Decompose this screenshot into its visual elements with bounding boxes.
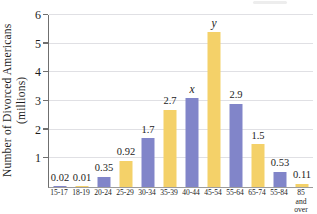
x-axis-label-35-39: 35-39 xyxy=(158,189,180,214)
bar-value-label: 2.9 xyxy=(229,90,242,101)
bar-slot-35-39: 2.7 xyxy=(159,15,181,187)
bar-value-label: x xyxy=(189,84,194,96)
y-tick-mark-5 xyxy=(43,42,48,43)
bar-55-84 xyxy=(274,172,287,187)
x-axis-label-85: 85 and over xyxy=(290,189,312,214)
bar-slot-45-54: y xyxy=(203,15,225,187)
x-axis-label-20-24: 20-24 xyxy=(92,189,114,214)
x-axis-label-18-19: 18-19 xyxy=(70,189,92,214)
y-tick-mark-4 xyxy=(43,71,48,72)
x-axis-label-15-17: 15-17 xyxy=(48,189,70,214)
y-tick-mark-2 xyxy=(43,128,48,129)
bar-40-44 xyxy=(186,98,199,187)
plot-area: 1234560.020.010.350.921.72.7xy2.91.50.53… xyxy=(48,15,313,188)
bar-value-label: 0.53 xyxy=(271,158,289,169)
bar-value-label: 0.02 xyxy=(51,173,69,184)
bar-slot-20-24: 0.35 xyxy=(93,15,115,187)
y-tick-label-3: 3 xyxy=(35,95,41,107)
bar-18-19 xyxy=(76,186,89,187)
bar-15-17 xyxy=(54,186,67,187)
bar-slot-15-17: 0.02 xyxy=(49,15,71,187)
bar-55-64 xyxy=(230,104,243,187)
bar-value-label: 0.01 xyxy=(73,173,91,184)
bar-slot-85: 0.11 xyxy=(291,15,313,187)
y-tick-label-2: 2 xyxy=(35,124,41,136)
bar-45-54 xyxy=(208,32,221,187)
x-axis-label-65-74: 65-74 xyxy=(246,189,268,214)
y-axis-title: Number of Divorced Americans (millions) xyxy=(1,8,33,192)
y-tick-mark-3 xyxy=(43,100,48,101)
bar-slot-30-34: 1.7 xyxy=(137,15,159,187)
bar-value-label: 0.92 xyxy=(117,147,135,158)
bar-value-label: 1.7 xyxy=(141,125,154,136)
y-tick-mark-1 xyxy=(43,157,48,158)
bar-30-34 xyxy=(142,138,155,187)
bar-value-label: 2.7 xyxy=(163,96,176,107)
bar-20-24 xyxy=(98,177,111,187)
bar-value-label: 0.35 xyxy=(95,163,113,174)
bar-25-29 xyxy=(120,161,133,187)
x-axis-label-45-54: 45-54 xyxy=(202,189,224,214)
x-axis-label-30-34: 30-34 xyxy=(136,189,158,214)
x-axis-label-55-64: 55-64 xyxy=(224,189,246,214)
bar-slot-40-44: x xyxy=(181,15,203,187)
bar-65-74 xyxy=(252,144,265,187)
bar-85 xyxy=(296,184,309,187)
x-axis-labels-row: 15-1718-1920-2425-2930-3435-3940-4445-54… xyxy=(48,189,312,214)
bar-value-label: 1.5 xyxy=(251,131,264,142)
y-tick-label-1: 1 xyxy=(35,152,41,164)
x-axis-label-25-29: 25-29 xyxy=(114,189,136,214)
bar-35-39 xyxy=(164,110,177,187)
bar-value-label: y xyxy=(211,18,216,30)
bar-slot-65-74: 1.5 xyxy=(247,15,269,187)
bar-slot-18-19: 0.01 xyxy=(71,15,93,187)
top-edge-artifact xyxy=(253,1,287,4)
divorced-americans-bar-chart: Number of Divorced Americans (millions) … xyxy=(0,0,317,214)
x-axis-label-55-84: 55-84 xyxy=(268,189,290,214)
bar-slot-55-84: 0.53 xyxy=(269,15,291,187)
y-tick-label-5: 5 xyxy=(35,38,41,50)
bar-value-label: 0.11 xyxy=(293,170,311,181)
y-tick-label-4: 4 xyxy=(35,66,41,78)
y-tick-label-6: 6 xyxy=(35,9,41,21)
bar-slot-55-64: 2.9 xyxy=(225,15,247,187)
x-axis-label-40-44: 40-44 xyxy=(180,189,202,214)
y-tick-mark-6 xyxy=(43,14,48,15)
bar-slot-25-29: 0.92 xyxy=(115,15,137,187)
